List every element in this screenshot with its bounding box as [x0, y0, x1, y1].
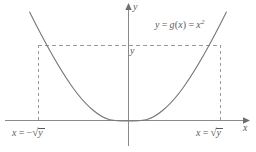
x-neg-var: x: [12, 127, 17, 138]
radical-bar: [216, 128, 223, 129]
x-positive-root-label: x=√y: [196, 128, 221, 138]
y-axis-arrow-icon: [125, 3, 131, 10]
y-axis-label: y: [133, 2, 138, 12]
curve-eq-exponent: 2: [201, 18, 205, 26]
parabola-figure: y x y=g(x)=x2 y x=−√y x=√y: [0, 0, 256, 152]
x-pos-equals: =: [201, 127, 211, 138]
x-axis-label: x: [243, 123, 248, 133]
curve-eq-equals-2: =: [186, 19, 196, 30]
y-value-label: y: [130, 46, 135, 56]
x-neg-radical: √y: [32, 128, 43, 138]
x-pos-radical: √y: [210, 128, 221, 138]
x-negative-root-label: x=−√y: [12, 128, 43, 138]
x-neg-equals: =: [17, 127, 27, 138]
x-pos-var: x: [196, 127, 201, 138]
radical-bar: [38, 128, 45, 129]
curve-eq-lhs: y: [155, 19, 160, 30]
curve-eq-equals-1: =: [160, 19, 170, 30]
curve-equation-label: y=g(x)=x2: [155, 19, 205, 30]
